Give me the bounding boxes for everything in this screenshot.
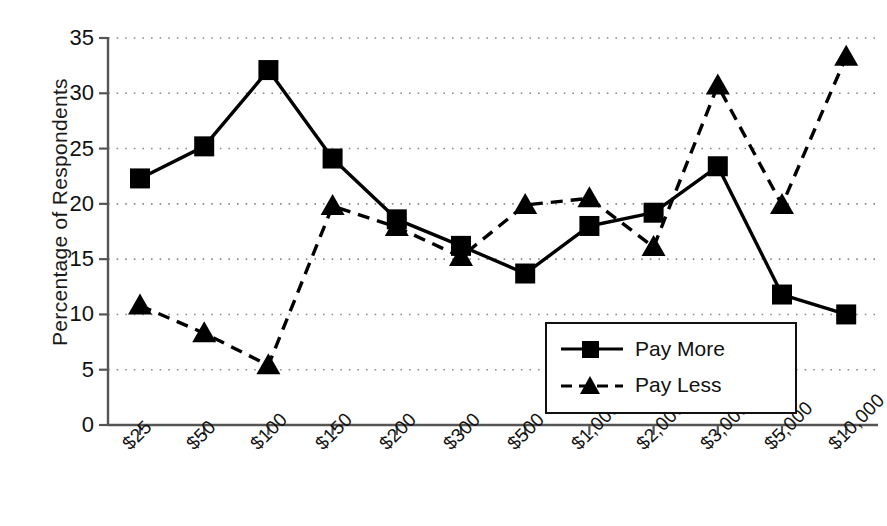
y-axis-tick-label: 35 (48, 27, 94, 49)
data-point-marker-square (258, 60, 278, 80)
y-axis-tick-labels: 05101520253035 (48, 0, 94, 526)
y-axis-tick-label: 10 (48, 303, 94, 325)
data-point-marker-square (194, 136, 214, 156)
y-axis-tick-label: 20 (48, 193, 94, 215)
data-point-marker-square (515, 264, 535, 284)
legend-swatch-square-solid (559, 338, 625, 360)
y-axis-tick-label: 5 (48, 359, 94, 381)
series-line-pay-more (140, 70, 846, 314)
data-point-marker-triangle (706, 74, 730, 95)
legend-label-pay-less: Pay Less (635, 373, 721, 397)
data-point-marker-triangle (770, 193, 794, 214)
data-point-marker-square (772, 285, 792, 305)
data-point-marker-triangle (192, 321, 216, 342)
data-point-marker-triangle (577, 186, 601, 207)
data-point-marker-square (644, 203, 664, 223)
y-axis-tick-label: 25 (48, 138, 94, 160)
data-point-marker-triangle (834, 45, 858, 66)
legend-item-pay-less: Pay Less (547, 367, 795, 403)
legend-label-pay-more: Pay More (635, 337, 725, 361)
data-point-marker-triangle (128, 294, 152, 315)
chart-container: Percentage of Respondents 05101520253035… (0, 0, 887, 526)
data-point-marker-square (579, 216, 599, 236)
data-point-marker-triangle (256, 353, 280, 374)
y-axis-tick-label: 15 (48, 248, 94, 270)
data-point-marker-square (130, 168, 150, 188)
chart-legend: Pay More Pay Less (545, 322, 797, 414)
legend-item-pay-more: Pay More (547, 331, 795, 367)
data-point-marker-square (323, 149, 343, 169)
legend-swatch-triangle-dashed (559, 374, 625, 396)
y-axis-tick-label: 0 (48, 414, 94, 436)
data-point-marker-square (836, 304, 856, 324)
y-axis-tick-label: 30 (48, 82, 94, 104)
data-point-marker-square (708, 156, 728, 176)
data-point-marker-triangle (642, 235, 666, 256)
